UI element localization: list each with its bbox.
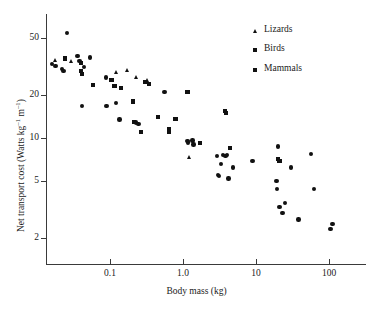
data-point [91,83,95,87]
data-point [61,69,65,73]
data-point [53,58,57,62]
data-point [147,82,151,86]
data-point [250,159,254,163]
data-point [328,227,332,231]
data-point [117,117,121,121]
data-point [276,144,280,148]
data-point [296,217,300,221]
data-point [330,222,334,226]
data-point [65,31,69,35]
legend-label-lizards: Lizards [264,24,293,34]
data-point [280,211,284,215]
data-point [112,84,116,88]
data-point [217,174,221,178]
data-point [109,78,113,82]
data-point [77,59,81,63]
data-point [224,111,228,115]
data-point [191,142,195,146]
data-point [277,205,281,209]
data-point [119,86,123,90]
data-point [162,90,166,94]
data-point [114,70,118,74]
data-point [134,75,138,79]
data-point [274,179,278,183]
data-point [231,165,235,169]
legend-label-mammals: Mammals [264,63,302,73]
data-point [104,104,108,108]
data-point [69,59,73,63]
data-points-layer [0,0,373,310]
data-point [156,115,160,119]
scatter-chart: Net transport cost (Watts kg–1 m–1) Body… [0,0,373,310]
data-point [139,130,143,134]
data-point [226,176,230,180]
data-point [88,55,92,59]
data-point [82,65,86,69]
data-point [289,165,293,169]
data-point [275,187,279,191]
data-point [125,68,129,72]
legend-marker-birds [253,48,257,52]
data-point [173,117,177,121]
data-point [167,130,171,134]
data-point [225,153,229,157]
legend-marker-lizards [253,29,257,33]
data-point [185,90,189,94]
data-point [198,141,202,145]
legend-label-birds: Birds [264,43,285,53]
data-point [80,104,84,108]
data-point [104,75,108,79]
data-point [215,154,219,158]
data-point [312,187,316,191]
data-point [219,162,223,166]
data-point [277,159,281,163]
data-point [75,54,79,58]
data-point [136,122,140,126]
data-point [63,56,67,60]
data-point [53,64,57,68]
data-point [80,72,84,76]
data-point [228,146,232,150]
legend-marker-mammals [253,68,257,72]
data-point [114,101,118,105]
data-point [131,99,135,103]
data-point [187,155,191,159]
data-point [283,201,287,205]
data-point [309,152,313,156]
